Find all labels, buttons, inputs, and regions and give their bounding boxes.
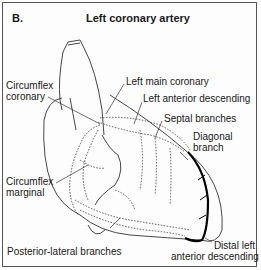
label-left-anterior-descending: Left anterior descending [143, 93, 250, 104]
label-diagonal-branch: Diagonal branch [193, 131, 232, 153]
aorta-outline [63, 40, 104, 135]
label-septal-branches: Septal branches [164, 113, 236, 124]
posterior-lateral-vessel [75, 200, 190, 230]
label-circumflex-coronary: Circumflex coronary [6, 80, 53, 102]
label-circumflex-marginal: Circumflex marginal [6, 176, 53, 198]
label-distal-lad: Distal left anterior descending [171, 240, 255, 262]
label-left-main-coronary: Left main coronary [126, 76, 209, 87]
circumflex-vessel [70, 125, 100, 215]
label-posterior-lateral-branches: Posterior-lateral branches [7, 246, 122, 257]
